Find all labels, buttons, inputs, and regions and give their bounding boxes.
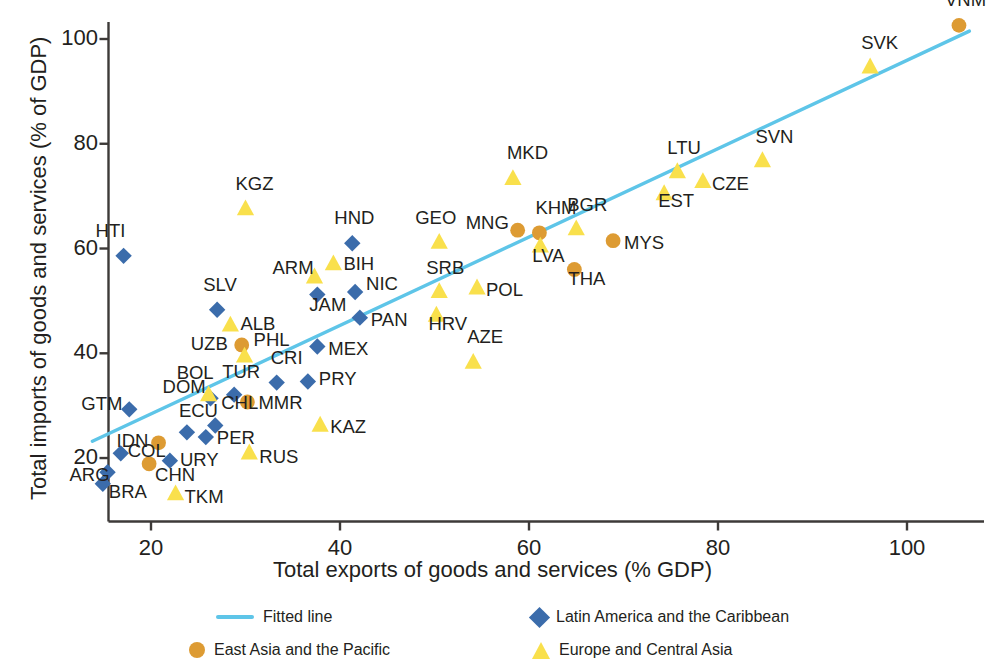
point-label-POL: POL [486,279,523,301]
point-label-TKM: TKM [185,486,224,508]
point-label-ARG: ARG [70,464,110,486]
point-label-PER: PER [217,427,255,449]
point-label-LTU: LTU [667,137,701,159]
point-label-BIH: BIH [343,253,374,275]
triangle-marker-icon [532,642,550,659]
point-label-JAM: JAM [309,294,346,316]
point-label-EST: EST [658,190,694,212]
point-label-LVA: LVA [532,245,564,267]
point-label-HTI: HTI [96,220,126,242]
point-label-HRV: HRV [428,313,467,335]
point-label-RUS: RUS [259,446,298,468]
point-label-TUR: TUR [222,361,260,383]
point-label-CZE: CZE [712,173,749,195]
legend-label: Latin America and the Caribbean [556,608,789,626]
legend-item-fitted-line[interactable]: Fitted line [216,608,332,626]
point-label-MKD: MKD [507,142,548,164]
y-axis-title: Total imports of goods and services (% o… [26,37,52,500]
point-label-UZB: UZB [191,333,228,355]
point-label-BRA: BRA [109,481,147,503]
circle-marker-icon [189,642,205,658]
legend-label: East Asia and the Pacific [214,641,390,659]
legend-item-latin-america-and-the-caribbean[interactable]: Latin America and the Caribbean [532,608,789,626]
point-label-VNM: VNM [945,0,986,11]
point-label-HND: HND [334,207,374,229]
point-label-SLV: SLV [203,274,237,296]
point-label-AZE: AZE [467,326,503,348]
point-label-MNG: MNG [466,212,509,234]
point-label-PRY: PRY [319,368,357,390]
point-label-PHL: PHL [254,329,290,351]
point-label-MYS: MYS [624,232,664,254]
point-label-ARM: ARM [272,257,313,279]
legend-label: Europe and Central Asia [559,641,732,659]
point-label-PAN: PAN [371,309,408,331]
point-label-MMR: MMR [258,392,302,414]
diamond-marker-icon [529,606,550,627]
point-label-GEO: GEO [415,207,456,229]
fitted-line-swatch-icon [216,615,254,619]
point-label-CHL: CHL [221,392,258,414]
legend-item-europe-and-central-asia[interactable]: Europe and Central Asia [532,641,732,659]
point-label-KGZ: KGZ [236,173,274,195]
point-label-THA: THA [568,268,605,290]
point-label-SRB: SRB [426,257,464,279]
point-label-ECU: ECU [179,400,218,422]
point-label-MEX: MEX [328,338,368,360]
point-label-SVK: SVK [861,32,898,54]
legend-label: Fitted line [263,608,332,626]
point-label-BOL: BOL [177,362,214,384]
point-label-NIC: NIC [366,273,398,295]
point-label-GTM: GTM [81,393,122,415]
legend-item-east-asia-and-the-pacific[interactable]: East Asia and the Pacific [189,641,390,659]
x-axis-title: Total exports of goods and services (% G… [0,557,985,583]
point-label-SVN: SVN [755,126,793,148]
point-label-CHN: CHN [155,464,195,486]
point-label-KAZ: KAZ [330,416,366,438]
point-label-BGR: BGR [567,194,607,216]
point-label-IDN: IDN [117,430,149,452]
